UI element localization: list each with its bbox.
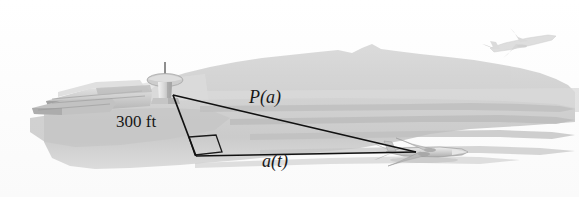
figure-canvas: 300 ft P(a) a(t) (0, 0, 579, 197)
base-label: a(t) (262, 152, 288, 170)
hypotenuse-label: P(a) (249, 88, 281, 106)
height-label: 300 ft (116, 113, 156, 130)
